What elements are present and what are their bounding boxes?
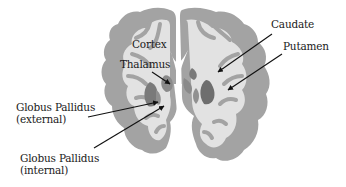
brain-diagram: Cortex Thalamus Caudate Putamen Globus P… [0, 0, 346, 187]
label-cortex: Cortex [132, 38, 167, 50]
label-gp-external: Globus Pallidus (external) [16, 101, 95, 125]
label-gp-external-line2: (external) [16, 113, 95, 125]
label-gp-external-line1: Globus Pallidus [16, 101, 95, 113]
label-gp-internal-line2: (internal) [20, 164, 99, 176]
label-putamen: Putamen [283, 40, 329, 52]
label-thalamus: Thalamus [120, 58, 170, 70]
label-caudate: Caudate [271, 18, 314, 30]
label-gp-internal: Globus Pallidus (internal) [20, 152, 99, 176]
label-gp-internal-line1: Globus Pallidus [20, 152, 99, 164]
